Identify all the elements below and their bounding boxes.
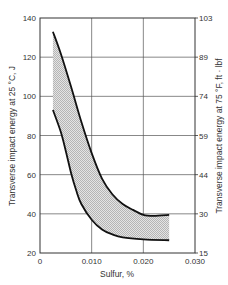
y-axis-ticks-left: 20406080100120140 <box>23 14 37 258</box>
scatter-band <box>53 32 169 241</box>
y-right-tick-label: 89 <box>199 53 208 62</box>
x-tick-label: 0.010 <box>82 257 103 266</box>
y-tick-label: 40 <box>27 210 36 219</box>
y-right-tick-label: 30 <box>199 210 208 219</box>
y-axis-label-left: Transverse impact energy at 25 °C, J <box>7 66 17 206</box>
y-tick-label: 80 <box>27 132 36 141</box>
y-tick-label: 140 <box>23 14 37 23</box>
y-axis-ticks-right: 153044597489103 <box>195 14 213 258</box>
x-tick-label: 0.030 <box>185 257 206 266</box>
y-right-tick-label: 103 <box>199 14 213 23</box>
x-axis-label: Sulfur, % <box>100 269 134 279</box>
y-tick-label: 20 <box>27 249 36 258</box>
x-tick-label: 0 <box>38 257 43 266</box>
y-right-tick-label: 59 <box>199 132 208 141</box>
x-axis-ticks: 00.0100.0200.030 <box>38 257 206 266</box>
x-tick-label: 0.020 <box>133 257 154 266</box>
y-tick-label: 100 <box>23 92 37 101</box>
impact-energy-chart: 00.0100.0200.030 20406080100120140 15304… <box>0 0 228 285</box>
y-tick-label: 60 <box>27 171 36 180</box>
y-right-tick-label: 74 <box>199 92 208 101</box>
y-right-tick-label: 44 <box>199 171 208 180</box>
y-tick-label: 120 <box>23 53 37 62</box>
y-axis-label-right: Transverse impact energy at 75 °F, ft · … <box>214 58 224 214</box>
y-right-tick-label: 15 <box>199 249 208 258</box>
